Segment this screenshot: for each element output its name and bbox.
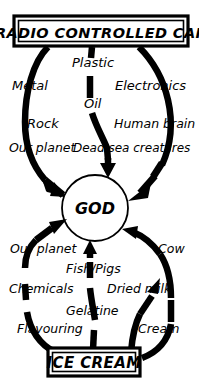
label-cream: Cream xyxy=(138,321,179,336)
arrowhead-bottom-center xyxy=(83,240,97,254)
label-dried-milk: Dried milk xyxy=(107,281,172,296)
label-flavouring: Flavouring xyxy=(17,321,83,336)
label-plastic: Plastic xyxy=(72,55,114,70)
label-dead-sea-creatures: Dead sea creatures xyxy=(73,141,190,155)
arrowhead-cow-cream xyxy=(122,226,138,239)
label-fish-pigs: Fish/Pigs xyxy=(66,261,121,276)
god-label: GOD xyxy=(75,199,115,218)
diagram-canvas: RADIO CONTROLLED CAR Plastic xyxy=(0,0,199,391)
label-electronics: Electronics xyxy=(115,78,186,93)
label-our-planet-upper: Our planet xyxy=(9,140,77,155)
label-chemicals: Chemicals xyxy=(9,281,74,296)
bottom-box-label: ICE CREAM xyxy=(47,354,142,372)
label-human-brain: Human brain xyxy=(114,116,195,131)
node-god[interactable]: GOD xyxy=(62,175,128,241)
label-oil: Oil xyxy=(84,96,102,111)
diagram-svg: RADIO CONTROLLED CAR Plastic xyxy=(0,0,199,391)
node-ice-cream[interactable]: ICE CREAM xyxy=(47,348,142,376)
top-box-label: RADIO CONTROLLED CAR xyxy=(0,25,199,41)
label-cow: Cow xyxy=(158,241,185,256)
lower-edge-labels: Our planet Cow Fish/Pigs Chemicals Dried… xyxy=(9,241,185,336)
node-radio-controlled-car[interactable]: RADIO CONTROLLED CAR xyxy=(0,16,199,46)
label-our-planet-lower: Our planet xyxy=(10,241,78,256)
label-gelatine: Gelatine xyxy=(66,303,119,318)
label-rock: Rock xyxy=(27,116,59,131)
arrow-bottom-center-materials xyxy=(83,240,97,350)
label-metal: Metal xyxy=(12,78,48,93)
